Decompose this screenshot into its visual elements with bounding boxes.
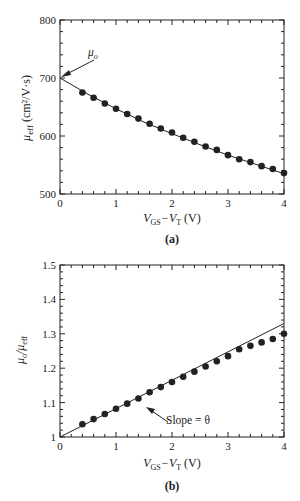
data-point [135, 115, 142, 122]
chart-a-y-axis-label: μeff (cm²/V·s) [19, 75, 35, 142]
data-point [146, 121, 153, 128]
data-point [113, 105, 120, 112]
data-point [281, 170, 288, 177]
x-tick-label: 3 [225, 197, 231, 209]
data-point [102, 100, 109, 107]
data-point [169, 129, 176, 136]
y-tick-label: 1.2 [42, 362, 56, 374]
x-tick-label: 0 [57, 440, 63, 452]
data-point [270, 336, 277, 343]
chart-b-x-axis-label: VGS−VT (V) [143, 456, 201, 472]
x-tick-label: 4 [281, 197, 287, 209]
chart-b-panel-label: (b) [165, 479, 180, 493]
data-point [79, 421, 86, 428]
chart-b-ticks [60, 265, 284, 437]
chart-b-data-points [79, 331, 287, 428]
data-point [90, 94, 97, 101]
data-point [113, 405, 120, 412]
chart-a-panel-label: (a) [165, 232, 179, 246]
y-tick-label: 1.4 [42, 293, 56, 305]
data-point [202, 143, 209, 150]
data-point [236, 346, 243, 353]
figure: 500600700800 01234 μo μeff (cm²/V·s) VGS… [0, 0, 300, 501]
data-point [236, 156, 243, 163]
chart-b-y-axis-label: μo/μeff [13, 336, 29, 365]
data-point [191, 139, 198, 146]
y-tick-label: 1.3 [42, 328, 56, 340]
data-point [158, 384, 165, 391]
chart-a-x-tick-labels: 01234 [57, 197, 287, 209]
data-point [102, 411, 109, 418]
x-tick-label: 4 [281, 440, 287, 452]
data-point [169, 379, 176, 386]
data-point [146, 389, 153, 396]
data-point [180, 134, 187, 141]
x-tick-label: 1 [113, 440, 119, 452]
x-tick-label: 2 [169, 197, 175, 209]
data-point [225, 353, 232, 360]
chart-b-x-tick-labels: 01234 [57, 440, 287, 452]
data-point [247, 159, 254, 166]
data-point [180, 374, 187, 381]
y-tick-label: 500 [40, 188, 57, 200]
data-point [90, 416, 97, 423]
data-point [281, 331, 288, 338]
data-point [158, 125, 165, 132]
mu-o-arrowhead-icon [61, 70, 71, 77]
mu-o-annotation: μo [87, 46, 98, 61]
data-point [214, 358, 221, 365]
y-tick-label: 700 [40, 72, 57, 84]
data-point [79, 89, 86, 96]
chart-b-y-tick-labels: 11.11.21.31.41.5 [42, 259, 56, 443]
data-point [247, 343, 254, 350]
slope-annotation: Slope = θ [166, 414, 210, 427]
slope-arrowhead-icon [146, 407, 155, 414]
data-point [124, 111, 131, 118]
chart-b-plot-frame [60, 265, 284, 437]
y-tick-label: 800 [40, 14, 57, 26]
y-tick-label: 1 [51, 431, 57, 443]
x-tick-label: 2 [169, 440, 175, 452]
data-point [202, 363, 209, 370]
y-tick-label: 1.5 [42, 259, 56, 271]
y-tick-label: 600 [40, 130, 57, 142]
chart-a-data-points [79, 89, 287, 176]
chart-a-x-axis-label: VGS−VT (V) [143, 211, 201, 227]
x-tick-label: 1 [113, 197, 119, 209]
data-point [225, 152, 232, 159]
data-point [270, 166, 277, 173]
data-point [135, 395, 142, 402]
chart-a: 500600700800 01234 μo μeff (cm²/V·s) VGS… [19, 14, 287, 246]
y-tick-label: 1.1 [42, 397, 56, 409]
data-point [258, 163, 265, 170]
data-point [258, 339, 265, 346]
chart-b: 11.11.21.31.41.5 01234 Slope = θ μo/μeff… [13, 259, 287, 493]
x-tick-label: 0 [57, 197, 63, 209]
data-point [214, 147, 221, 154]
chart-a-y-tick-labels: 500600700800 [40, 14, 57, 200]
data-point [191, 368, 198, 375]
data-point [124, 400, 131, 407]
x-tick-label: 3 [225, 440, 231, 452]
